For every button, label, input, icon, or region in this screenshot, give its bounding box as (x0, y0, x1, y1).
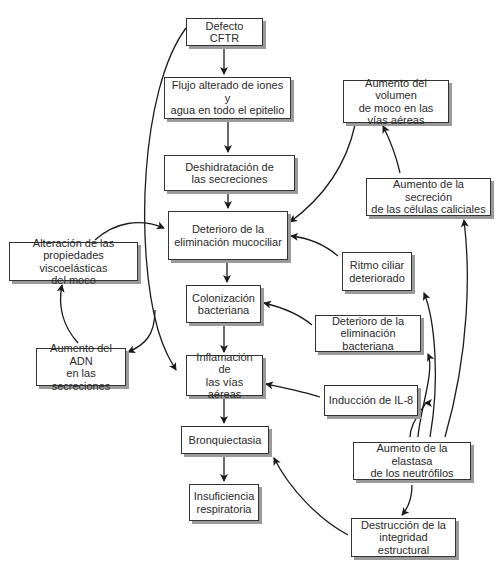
edge-elastasa-destruc (402, 485, 412, 515)
node-elastasa: Aumento de la elastasa de los neutrófilo… (353, 442, 471, 480)
node-volumen-moco: Aumento del volumen de moco en las vías … (343, 80, 449, 123)
node-flujo-alterado: Flujo alterado de iones y agua en todo e… (164, 77, 291, 119)
node-viscoelasticas: Alteración de las propiedades viscoelást… (9, 242, 138, 281)
node-il8: Inducción de IL-8 (324, 385, 418, 416)
node-insuficiencia: Insuficiencia respiratoria (189, 484, 259, 521)
node-eliminacion-mucociliar: Deterioro de la eliminación mucociliar (168, 211, 288, 260)
node-defecto-cftr: Defecto CFTR (186, 18, 263, 46)
node-deshidratacion: Deshidratación de las secreciones (164, 155, 295, 191)
node-eliminacion-bacteriana: Deterioro de la eliminación bacteriana (315, 315, 421, 352)
node-aumento-adn: Aumento del ADN en las secreciones (36, 348, 126, 386)
edge-adn-viscoel (61, 285, 78, 343)
node-destruccion: Destrucción de la integridad estructural (351, 518, 456, 557)
edge-elastasa-elimbact (418, 354, 430, 437)
node-celulas-caliciales: Aumento de la secreción de las células c… (366, 178, 491, 216)
edge-cftr-adn (128, 310, 155, 352)
node-bronquiectasia: Bronquiectasia (181, 426, 269, 454)
edge-caliciales-volumen (383, 126, 400, 173)
edge-ritmo-mucocil (291, 236, 338, 256)
node-inflamacion: Inflamación de las vías aéreas (186, 355, 263, 396)
node-colonizacion: Colonización bacteriana (186, 285, 261, 323)
edge-il8-inflam (266, 384, 320, 397)
edge-elimbact-coloniz (264, 303, 312, 325)
edge-destruc-bronq (274, 458, 348, 535)
node-ritmo-ciliar: Ritmo ciliar deteriorado (342, 252, 412, 291)
edge-elastasa-caliciales (445, 220, 467, 437)
edge-volumen-mucocil (290, 125, 355, 222)
